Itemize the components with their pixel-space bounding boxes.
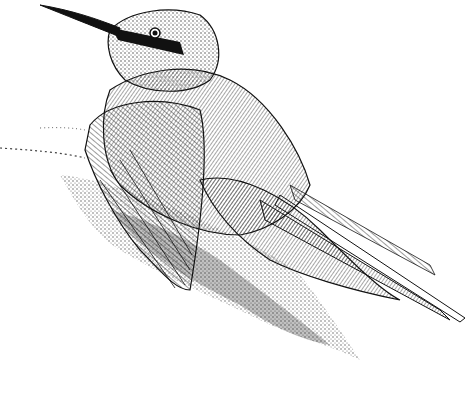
head [108,10,219,91]
illustration-canvas [0,0,467,399]
bee-eater-illustration [0,0,467,399]
beak [40,5,120,36]
